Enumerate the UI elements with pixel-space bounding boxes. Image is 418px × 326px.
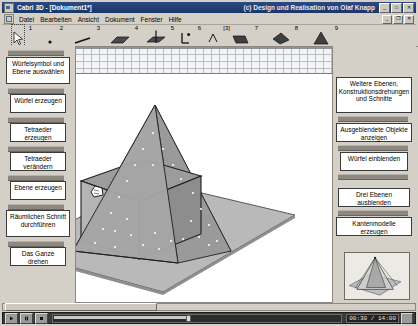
tool-number: 2	[60, 25, 63, 31]
menu-item-bearbeiten[interactable]: Bearbeiten	[37, 16, 74, 23]
window-title: Cabri 3D - [Dokument1*]	[17, 4, 92, 11]
seek-progress-fill	[54, 316, 187, 319]
left-step-3[interactable]: Tetraeder erzeugen	[10, 123, 66, 142]
title-bar: Cabri 3D - [Dokument1*] (c) Design und R…	[2, 2, 416, 13]
tool-number: 1	[29, 25, 32, 31]
left-step-7-label: Das Ganze drehen	[22, 250, 55, 265]
right-step-2[interactable]: Ausgeblendete Objekte anzeigen	[336, 123, 412, 142]
left-step-1[interactable]: Würfelsymbol und Ebene auswählen	[6, 57, 70, 84]
tool-number: 5	[171, 25, 174, 31]
step-divider	[338, 116, 408, 122]
app-icon	[4, 3, 14, 13]
tool-pyramid[interactable]: 9	[312, 25, 330, 46]
right-step-5[interactable]: Kantenmodelle erzeugen	[336, 217, 412, 236]
left-step-2[interactable]: Würfel erzeugen	[10, 94, 66, 113]
tool-number: 7	[255, 25, 258, 31]
perpendicular-icon	[146, 30, 166, 46]
left-step-6-label: Räumlichen Schnitt durchführen	[10, 213, 66, 228]
tool-bar: 1 2 3 4 5	[2, 25, 418, 47]
vector-icon	[180, 31, 192, 46]
stop-button[interactable]	[35, 313, 48, 324]
plane-icon	[110, 32, 130, 46]
seek-slider[interactable]	[52, 314, 342, 323]
pointer-icon	[12, 31, 24, 46]
right-step-2-label: Ausgeblendete Objekte anzeigen	[340, 126, 408, 141]
tool-tetrahedron[interactable]: 8	[272, 25, 290, 46]
left-step-4[interactable]: Tetraeder verändern	[10, 152, 66, 171]
right-step-1[interactable]: Weitere Ebenen, Konstruktionsdrehungen u…	[336, 77, 412, 113]
right-step-5-label: Kantenmodelle erzeugen	[352, 220, 395, 235]
left-step-3-label: Tetraeder erzeugen	[24, 126, 51, 141]
mdi-minimize-button[interactable]: _	[382, 15, 392, 24]
step-divider	[338, 145, 408, 151]
tool-polygon[interactable]: [3]	[208, 25, 218, 46]
right-step-1-label: Weitere Ebenen, Konstruktionsdrehungen u…	[339, 80, 409, 102]
left-step-5-label: Ebene erzeugen	[14, 184, 62, 191]
scrollbar-thumb[interactable]	[5, 303, 157, 311]
tool-vector[interactable]: 6	[180, 25, 192, 46]
tool-number: 4	[135, 25, 138, 31]
tetrahedron-icon	[272, 31, 290, 46]
mdi-restore-button[interactable]: ❐	[393, 15, 403, 24]
mdi-window-controls: _ ❐ ✕	[382, 15, 414, 24]
menu-item-hilfe[interactable]: Hilfe	[166, 16, 185, 23]
left-step-6[interactable]: Räumlichen Schnitt durchführen	[6, 210, 70, 237]
left-step-7[interactable]: Das Ganze drehen	[10, 247, 66, 266]
minimize-button[interactable]: _	[379, 3, 390, 13]
right-step-4[interactable]: Drei Ebenen ausblenden	[338, 188, 410, 207]
tool-number: [3]	[223, 25, 230, 31]
right-step-3-label: Würfel einblenden	[348, 155, 400, 162]
right-step-3[interactable]: Würfel einblenden	[340, 152, 408, 171]
thumbnail-scene-icon	[345, 253, 409, 299]
tool-plane[interactable]: 4	[110, 25, 130, 46]
menu-bar: Datei Bearbeiten Ansicht Dokument Fenste…	[2, 14, 416, 25]
time-display: 00:30 / 14:00	[346, 314, 399, 323]
horizontal-scrollbar[interactable]	[2, 303, 416, 311]
maximize-button[interactable]: □	[391, 3, 402, 13]
document-icon[interactable]	[4, 14, 14, 24]
tool-number: 9	[335, 25, 338, 31]
menu-item-dokument[interactable]: Dokument	[102, 16, 138, 23]
point-icon	[46, 32, 54, 46]
right-step-4-label: Drei Ebenen ausblenden	[356, 191, 392, 206]
tool-pointer[interactable]: 1	[12, 25, 24, 46]
left-step-5[interactable]: Ebene erzeugen	[10, 181, 66, 200]
tool-number: 8	[295, 25, 298, 31]
menu-item-datei[interactable]: Datei	[16, 16, 37, 23]
tool-point[interactable]: 2	[46, 25, 54, 46]
tool-prism[interactable]: 7	[232, 25, 250, 46]
tool-number: 3	[97, 25, 100, 31]
media-player-bar: 00:30 / 14:00	[2, 312, 416, 324]
window-credit: (c) Design und Realisation von Olaf Knap…	[244, 4, 375, 11]
volume-icon[interactable]	[401, 313, 413, 324]
close-button[interactable]: ✕	[403, 3, 414, 13]
pyramid-icon	[312, 31, 330, 46]
seek-handle[interactable]	[186, 315, 191, 322]
stop-icon	[39, 316, 44, 321]
tool-perpendicular[interactable]: 5	[146, 25, 166, 46]
tool-line[interactable]: 3	[74, 25, 92, 46]
polygon-icon	[208, 31, 218, 46]
window-controls: _ □ ✕	[379, 3, 414, 13]
menu-item-fenster[interactable]: Fenster	[138, 16, 166, 23]
left-step-1-label: Würfelsymbol und Ebene auswählen	[12, 60, 64, 75]
left-step-4-label: Tetraeder verändern	[23, 155, 52, 170]
tool-number: 6	[198, 25, 201, 31]
step-divider	[338, 210, 408, 216]
line-icon	[74, 32, 92, 46]
application-window: Cabri 3D - [Dokument1*] (c) Design und R…	[0, 0, 418, 326]
pause-button[interactable]	[20, 313, 33, 324]
step-divider	[338, 174, 408, 180]
mdi-close-button[interactable]: ✕	[404, 15, 414, 24]
left-step-2-label: Würfel erzeugen	[14, 97, 62, 104]
prism-icon	[232, 31, 250, 46]
pause-icon	[24, 316, 29, 321]
scene-thumbnail[interactable]	[344, 252, 410, 300]
step-divider	[8, 50, 64, 56]
play-button[interactable]	[5, 313, 18, 324]
menu-item-ansicht[interactable]: Ansicht	[75, 16, 102, 23]
play-icon	[9, 316, 14, 321]
